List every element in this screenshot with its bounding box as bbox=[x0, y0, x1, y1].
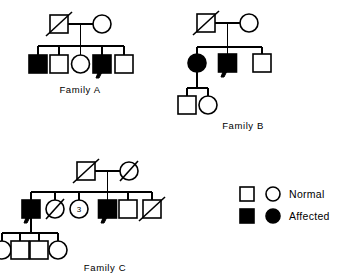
family-b-child-3 bbox=[253, 54, 271, 72]
family-a-child-2 bbox=[50, 55, 68, 73]
legend-normal-circle-icon bbox=[266, 187, 280, 201]
family-c-sibling-count: 3 bbox=[77, 205, 82, 214]
legend-normal-label: Normal bbox=[289, 188, 325, 200]
family-c-child-3: 3 bbox=[70, 200, 88, 218]
pedigree-figure: Family A bbox=[0, 0, 342, 278]
family-a-child-5 bbox=[115, 55, 133, 73]
family-b-grandchild-2 bbox=[199, 96, 217, 114]
family-c-grandchild-1 bbox=[0, 241, 11, 259]
family-b-grandchild-1 bbox=[178, 96, 196, 114]
legend-row-affected: Affected bbox=[240, 209, 330, 223]
family-c-grandchild-2 bbox=[11, 241, 29, 259]
legend-row-normal: Normal bbox=[240, 187, 325, 201]
family-c-mother bbox=[120, 161, 138, 181]
family-a-mother bbox=[93, 15, 111, 33]
family-b-label: Family B bbox=[222, 120, 264, 131]
family-c-child-6 bbox=[139, 197, 165, 221]
family-c-grandchild-4 bbox=[49, 241, 67, 259]
family-c-label: Family C bbox=[84, 262, 126, 273]
legend-affected-square-icon bbox=[240, 209, 254, 223]
family-a-child-4 bbox=[93, 55, 111, 78]
legend-affected-label: Affected bbox=[289, 210, 330, 222]
family-b-child-1 bbox=[188, 54, 206, 72]
family-c-child-2 bbox=[46, 199, 64, 219]
family-c-grandchild-3 bbox=[30, 241, 48, 259]
family-c-father bbox=[73, 159, 99, 183]
family-c-group: 3 Fami bbox=[0, 159, 165, 273]
legend: Normal Affected bbox=[240, 187, 330, 223]
family-b-mother bbox=[240, 14, 258, 32]
family-a-group: Family A bbox=[29, 12, 133, 95]
family-a-child-1 bbox=[29, 55, 47, 73]
family-b-group: Family B bbox=[178, 11, 271, 131]
family-a-father bbox=[46, 12, 72, 36]
pedigree-canvas: Family A bbox=[0, 0, 342, 278]
family-b-father bbox=[193, 11, 219, 35]
family-c-child-4 bbox=[99, 200, 117, 223]
legend-affected-circle-icon bbox=[266, 209, 280, 223]
family-a-child-3 bbox=[72, 55, 90, 73]
legend-normal-square-icon bbox=[240, 187, 254, 201]
family-c-child-5 bbox=[119, 200, 137, 218]
family-a-label: Family A bbox=[59, 84, 100, 95]
family-b-child-2 bbox=[219, 54, 237, 77]
